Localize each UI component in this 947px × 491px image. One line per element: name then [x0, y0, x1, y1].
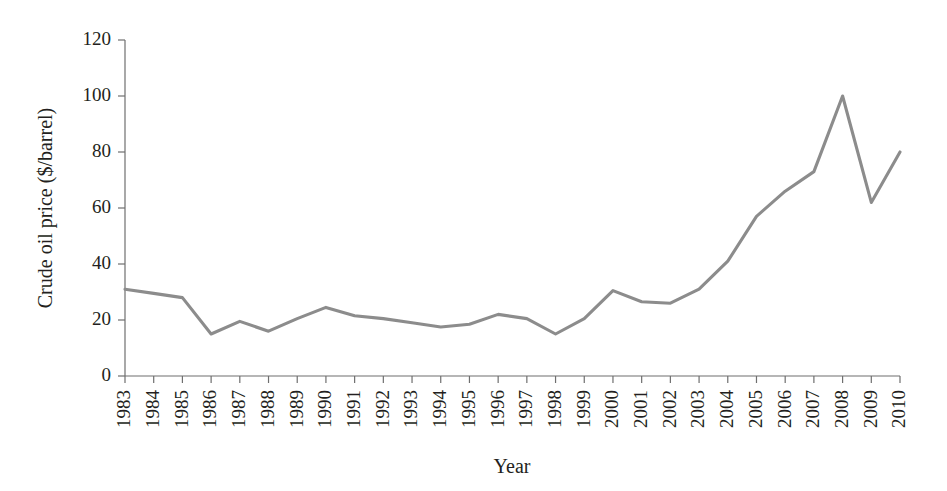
x-tick-label: 1986 [199, 390, 220, 428]
x-tick-label: 2003 [687, 390, 708, 428]
y-tick-label: 20 [92, 308, 111, 329]
x-tick-label: 2009 [860, 390, 881, 428]
y-tick-label: 0 [102, 364, 112, 385]
x-tick-label: 1999 [573, 390, 594, 428]
chart-canvas: 020406080100120 198319841985198619871988… [0, 0, 947, 491]
x-tick-label: 1991 [343, 390, 364, 428]
y-axis-title: Crude oil price ($/barrel) [34, 108, 57, 308]
y-tick-label: 60 [92, 196, 111, 217]
x-axis: 1983198419851986198719881989199019911992… [113, 376, 909, 428]
x-tick-label: 1987 [228, 390, 249, 428]
x-tick-label: 2006 [774, 390, 795, 428]
x-tick-label: 1997 [515, 390, 536, 428]
x-tick-label: 2008 [831, 390, 852, 428]
y-tick-label: 120 [83, 28, 112, 49]
x-tick-label: 2002 [659, 390, 680, 428]
crude-oil-price-chart: 020406080100120 198319841985198619871988… [0, 0, 947, 491]
x-tick-label: 2007 [802, 390, 823, 428]
x-tick-label: 1996 [487, 390, 508, 428]
x-tick-label: 1993 [400, 390, 421, 428]
x-tick-label: 1984 [142, 390, 163, 429]
y-tick-label: 80 [92, 140, 111, 161]
x-tick-label: 2000 [601, 390, 622, 428]
x-tick-label: 1992 [372, 390, 393, 428]
x-tick-label: 2010 [888, 390, 909, 428]
x-tick-label: 1990 [314, 390, 335, 428]
x-axis-title: Year [494, 455, 531, 477]
x-tick-label: 1989 [286, 390, 307, 428]
y-tick-group: 020406080100120 [83, 28, 126, 385]
x-tick-label: 1994 [429, 390, 450, 429]
x-tick-label: 2004 [716, 390, 737, 429]
x-tick-label: 1983 [113, 390, 134, 428]
x-tick-label: 1988 [257, 390, 278, 428]
x-tick-label: 1985 [171, 390, 192, 428]
y-tick-label: 40 [92, 252, 111, 273]
x-tick-label: 2001 [630, 390, 651, 428]
y-axis: 020406080100120 [83, 28, 126, 385]
x-tick-group: 1983198419851986198719881989199019911992… [113, 376, 909, 428]
crude-oil-price-line [125, 96, 900, 334]
x-tick-label: 2005 [745, 390, 766, 428]
x-tick-label: 1998 [544, 390, 565, 428]
plot-area [125, 96, 900, 334]
x-tick-label: 1995 [458, 390, 479, 428]
y-tick-label: 100 [83, 84, 112, 105]
